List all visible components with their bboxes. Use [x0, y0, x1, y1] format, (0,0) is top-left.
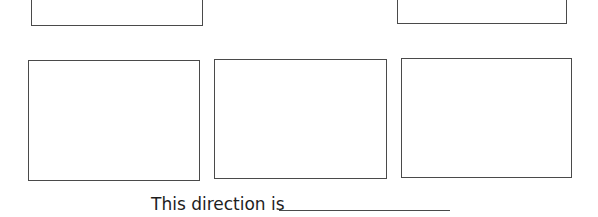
drawing-box-top-right	[397, 0, 567, 24]
direction-prompt-text: This direction is	[151, 193, 285, 215]
drawing-box-top-left	[31, 0, 203, 26]
answer-blank-line[interactable]	[279, 210, 450, 211]
drawing-box-bottom-3	[401, 58, 572, 178]
drawing-box-bottom-2	[214, 59, 387, 179]
drawing-box-bottom-1	[28, 60, 200, 181]
